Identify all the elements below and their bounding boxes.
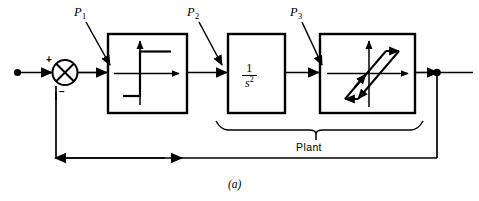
block-diagram-canvas: [0, 0, 479, 201]
tap-label-p2-subscript: 2: [195, 11, 199, 21]
tap-label-p2-base: P: [187, 5, 195, 19]
tap-label-p2: P2: [187, 6, 199, 19]
tap-label-p3-subscript: 3: [298, 11, 302, 21]
summing-junction-minus-sign: −: [59, 87, 65, 97]
block-2-denominator-exponent: 2: [250, 75, 254, 84]
plant-brace: [216, 121, 423, 140]
leader-line-p2: [199, 22, 222, 65]
tap-label-p3-base: P: [290, 5, 298, 19]
summing-junction: [53, 60, 78, 85]
tap-label-p1-base: P: [74, 5, 82, 19]
summing-junction-plus-sign: +: [46, 55, 52, 65]
figure-caption: (a): [228, 179, 241, 191]
leader-line-p1: [86, 22, 110, 65]
plant-label: Plant: [296, 142, 322, 153]
block-1: [108, 34, 187, 113]
tap-label-p3: P3: [290, 6, 302, 19]
block-2-transfer-function: 1 s2: [242, 62, 257, 89]
tap-label-p1-subscript: 1: [82, 11, 86, 21]
block-2-denominator: s2: [242, 76, 257, 89]
tap-label-p1: P1: [74, 6, 86, 19]
block-2-numerator: 1: [242, 62, 257, 75]
block-3: [320, 34, 415, 113]
figure-container: P1 P2 P3 + − 1 s2 Plant (a): [0, 0, 479, 201]
